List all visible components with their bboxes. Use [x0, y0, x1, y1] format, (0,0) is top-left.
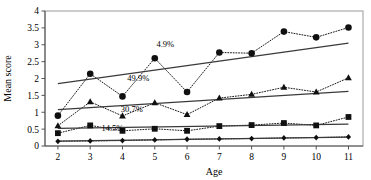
- data-point-square: [87, 123, 93, 129]
- data-point-circle: [87, 70, 94, 77]
- y-tick-label: 1: [34, 108, 39, 118]
- y-tick-label: 2.5: [27, 57, 39, 67]
- x-tick-label: 10: [311, 152, 321, 162]
- y-tick-label: 1.5: [27, 91, 39, 101]
- y-tick-label: 3: [34, 40, 39, 50]
- percentage-annotation: 30.7%: [121, 104, 143, 114]
- x-tick-label: 4: [120, 152, 125, 162]
- y-tick-label: 4: [34, 6, 39, 16]
- y-tick-label: 0: [34, 141, 39, 151]
- percentage-annotation: 49.9%: [127, 73, 149, 83]
- percentage-annotation: 4.9%: [156, 39, 174, 49]
- data-point-circle: [119, 93, 126, 100]
- y-tick-label: 0.5: [27, 125, 39, 135]
- data-point-square: [184, 128, 190, 134]
- y-tick-label: 2: [34, 74, 39, 84]
- x-tick-label: 9: [282, 152, 287, 162]
- x-tick-label: 11: [344, 152, 353, 162]
- data-point-square: [152, 126, 158, 132]
- data-point-circle: [184, 89, 191, 96]
- x-tick-label: 3: [88, 152, 93, 162]
- data-point-circle: [151, 55, 158, 62]
- y-tick-label: 3.5: [27, 23, 39, 33]
- x-axis-title: Age: [206, 166, 223, 177]
- data-point-circle: [313, 34, 320, 41]
- mean-score-by-age-line-chart: 00.511.522.533.54 234567891011 4.9%49.9%…: [0, 0, 371, 180]
- data-point-circle: [248, 50, 255, 57]
- data-point-circle: [345, 24, 352, 31]
- x-tick-label: 7: [217, 152, 222, 162]
- data-point-square: [55, 130, 61, 136]
- x-tick-label: 6: [185, 152, 190, 162]
- percentage-annotation: 14.5%: [101, 123, 123, 133]
- y-axis-title: Mean score: [2, 55, 13, 102]
- data-point-circle: [55, 112, 62, 119]
- data-point-square: [313, 123, 319, 129]
- chart-container: 00.511.522.533.54 234567891011 4.9%49.9%…: [0, 0, 371, 180]
- x-tick-label: 8: [249, 152, 254, 162]
- data-point-square: [249, 122, 255, 128]
- data-point-circle: [216, 49, 223, 56]
- x-tick-label: 2: [56, 152, 61, 162]
- data-point-circle: [281, 28, 288, 35]
- data-point-square: [281, 120, 287, 126]
- data-point-square: [216, 123, 222, 129]
- data-point-square: [346, 114, 352, 120]
- x-tick-label: 5: [152, 152, 157, 162]
